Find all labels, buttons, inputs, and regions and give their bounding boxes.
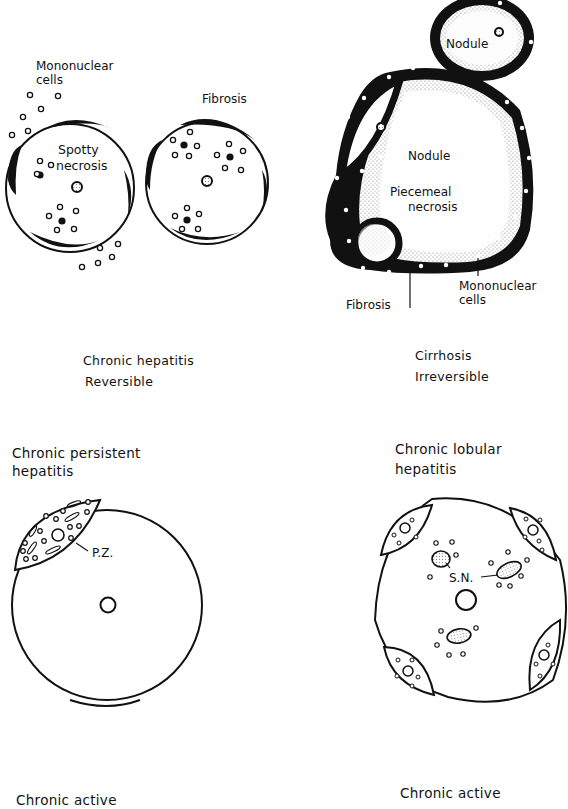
caption-reversible: Reversible xyxy=(85,373,153,390)
title-chronic-persistent-line2: hepatitis xyxy=(12,463,74,480)
label-mononuclear-line2: cells xyxy=(36,73,63,87)
label-mononuclear-cirrhosis-line1: Mononuclear xyxy=(459,279,537,293)
chronic-persistent-panel: P.Z. xyxy=(12,500,202,700)
lobule-spotty-necrosis xyxy=(6,92,134,269)
label-sn: S.N. xyxy=(449,571,473,585)
title-chronic-lobular-line1: Chronic lobular xyxy=(395,441,502,458)
title-chronic-active-right: Chronic active xyxy=(400,785,501,802)
label-fibrosis-cirrhosis: Fibrosis xyxy=(346,298,391,312)
caption-cirrhosis: Cirrhosis xyxy=(415,347,472,364)
label-pz: P.Z. xyxy=(92,546,113,560)
label-spotty-line1: Spotty xyxy=(58,142,99,157)
title-chronic-lobular-line2: hepatitis xyxy=(395,461,457,478)
label-spotty-line2: necrosis xyxy=(56,158,108,173)
caption-chronic-hepatitis: Chronic hepatitis xyxy=(83,352,194,369)
label-piecemeal-line1: Piecemeal xyxy=(390,185,451,199)
chronic-lobular-panel: S.N. xyxy=(375,498,566,701)
lobule-fibrosis xyxy=(146,119,268,244)
label-mononuclear-cirrhosis-line2: cells xyxy=(459,293,486,307)
chronic-hepatitis-panel: Mononuclear cells Spotty necrosis Fibros… xyxy=(6,59,268,270)
label-mononuclear-line1: Mononuclear xyxy=(36,59,114,73)
title-chronic-active-left: Chronic active xyxy=(16,792,117,809)
label-fibrosis: Fibrosis xyxy=(202,92,247,106)
label-piecemeal-line2: necrosis xyxy=(408,200,457,214)
cirrhosis-panel: Nodule Nodule Piecemeal necrosis Fibrosi… xyxy=(325,0,536,312)
caption-irreversible: Irreversible xyxy=(415,368,489,385)
label-nodule-top: Nodule xyxy=(446,37,488,51)
title-chronic-persistent-line1: Chronic persistent xyxy=(12,445,141,462)
label-nodule-main: Nodule xyxy=(408,149,450,163)
